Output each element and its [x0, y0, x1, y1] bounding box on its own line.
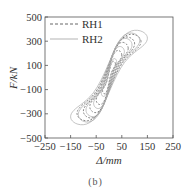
- y-tick-label: 500: [26, 12, 42, 23]
- y-axis-label: F/kN: [7, 66, 19, 90]
- y-tick-label: 100: [26, 60, 42, 71]
- hysteresis-loop-rh1: [90, 42, 128, 112]
- y-tick-label: −100: [20, 84, 42, 95]
- legend-label-rh2: RH2: [82, 33, 103, 45]
- hysteresis-loop-rh1: [83, 37, 134, 118]
- plot-frame: [45, 17, 173, 138]
- x-tick-label: 150: [140, 141, 156, 152]
- hysteresis-loop-rh2: [78, 33, 139, 122]
- legend: RH1 RH2: [50, 18, 103, 45]
- y-tick-label: −300: [20, 108, 42, 119]
- x-axis-ticks: −250−150−5050150250: [34, 135, 181, 152]
- hysteresis-chart: −500−300−100100300500 −250−150−505015025…: [0, 0, 191, 190]
- x-tick-label: −150: [60, 141, 82, 152]
- hysteresis-loop-rh2: [86, 38, 132, 116]
- y-tick-label: 300: [26, 36, 42, 47]
- x-tick-label: 50: [117, 141, 128, 152]
- legend-label-rh1: RH1: [82, 18, 103, 30]
- y-axis-ticks: −500−300−100100300500: [20, 12, 48, 144]
- x-tick-label: −50: [88, 141, 104, 152]
- x-axis-label: Δ/mm: [95, 154, 121, 166]
- hysteresis-loop-rh1: [96, 51, 122, 105]
- x-tick-label: −250: [34, 141, 56, 152]
- x-tick-label: 250: [165, 141, 181, 152]
- figure-caption: (b): [0, 176, 191, 187]
- hysteresis-loop-rh2: [94, 47, 125, 109]
